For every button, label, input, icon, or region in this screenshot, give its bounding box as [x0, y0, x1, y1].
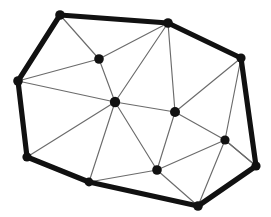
mesh-diagram-canvas: [0, 0, 271, 217]
boundary-edge-layer: [18, 15, 256, 206]
vertex-bottom-right-corner: [193, 201, 203, 211]
vertex-interior-right-lower: [220, 135, 229, 144]
vertex-interior-mid-right: [170, 107, 180, 117]
vertex-interior-upper-left: [94, 54, 104, 64]
vertex-left-lower-corner: [22, 152, 31, 161]
vertex-interior-bottom-mid: [152, 165, 162, 175]
interior-edge-v2-v11: [225, 58, 241, 140]
vertex-upper-right-corner: [236, 53, 245, 62]
vertex-lower-right-corner: [251, 161, 260, 170]
vertex-interior-center: [110, 97, 120, 107]
interior-edge-v1-v10: [168, 23, 175, 112]
vertex-top-left-corner: [55, 10, 65, 20]
interior-edge-v7-v9: [18, 81, 115, 102]
vertex-layer: [13, 10, 260, 211]
interior-edge-v0-v8: [60, 15, 99, 59]
interior-edge-v9-v5: [89, 102, 115, 182]
interior-edge-v2-v10: [175, 58, 241, 112]
vertex-top-apex: [163, 18, 173, 28]
interior-edge-v9-v6: [27, 102, 115, 157]
mesh-figure: [0, 0, 271, 217]
interior-edge-v9-v12: [115, 102, 157, 170]
vertex-left-corner: [13, 76, 23, 86]
interior-edge-layer: [18, 15, 256, 206]
interior-edge-v10-v12: [157, 112, 175, 170]
boundary-polygon: [18, 15, 256, 206]
vertex-bottom-left-corner: [85, 178, 94, 187]
interior-edge-v8-v1: [99, 23, 168, 59]
interior-edge-v1-v9: [115, 23, 168, 102]
interior-edge-v12-v5: [89, 170, 157, 182]
interior-edge-v8-v9: [99, 59, 115, 102]
interior-edge-v10-v11: [175, 112, 225, 140]
interior-edge-v9-v10: [115, 102, 175, 112]
